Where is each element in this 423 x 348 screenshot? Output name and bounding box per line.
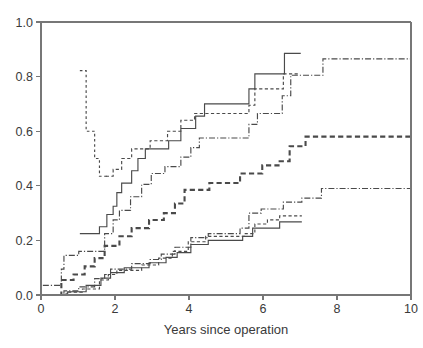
series-mid-dashed-thick [43,137,411,295]
axes-group [36,22,411,300]
tick-labels-group: 0.00.20.40.60.81.00246810 [16,16,418,317]
x-tick-label: 0 [38,302,45,316]
chart-figure: 0.00.20.40.60.81.00246810 Years since op… [0,0,423,348]
y-tick-label: 0.0 [16,289,33,303]
curves-group [43,53,411,295]
y-tick-label: 0.8 [16,70,33,84]
x-tick-label: 6 [260,302,267,316]
x-tick-label: 2 [112,302,119,316]
series-descending-dashed-band [80,71,108,177]
x-axis-title: Years since operation [164,322,289,337]
y-tick-label: 1.0 [16,16,33,30]
y-tick-label: 0.4 [16,179,33,193]
x-tick-label: 10 [404,302,418,316]
series-upper-solid [80,53,301,233]
x-tick-label: 4 [186,302,193,316]
x-tick-label: 8 [334,302,341,316]
series-upper-dashdot [43,59,411,286]
y-tick-label: 0.2 [16,234,33,248]
series-lower-dashdot [43,189,411,295]
step-plot-svg: 0.00.20.40.60.81.00246810 Years since op… [0,0,423,348]
y-tick-label: 0.6 [16,125,33,139]
series-upper-dashed-fine [106,74,298,176]
series-lower-solid [43,222,302,295]
